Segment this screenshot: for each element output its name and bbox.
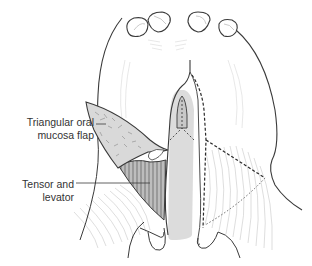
tooth-1 [127,18,148,37]
label-tensor-and-levator: Tensor and levator [2,178,74,204]
tensor-levator-muscle [118,160,166,220]
right-uvula-outline [198,232,240,258]
left-lower-arc [148,228,165,250]
palate-outline-right [236,30,302,210]
left-uvula-outline [140,228,164,237]
label-flap-line2: mucosa flap [2,129,94,142]
label-tensor-line1: Tensor and [2,178,74,191]
label-tensor-line2: levator [2,191,74,204]
tooth-4 [219,20,237,37]
label-triangular-oral-mucosa-flap: Triangular oral mucosa flap [2,116,94,142]
right-fiber-lines [205,146,272,250]
label-flap-line1: Triangular oral [2,116,94,129]
tooth-3 [188,12,210,32]
teeth [127,12,237,37]
tooth-2 [148,12,170,32]
